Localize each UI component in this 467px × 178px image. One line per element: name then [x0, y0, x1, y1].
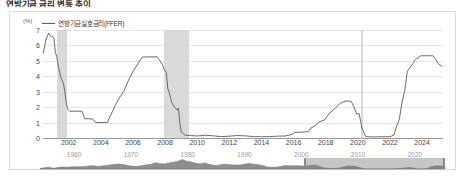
- x-axis-tick-label: 2010: [189, 139, 205, 146]
- x-axis-tick-label: 2016: [286, 139, 302, 146]
- x-axis-tick-label: 2002: [61, 139, 77, 146]
- y-axis-tick-label: 1: [36, 119, 40, 126]
- navigator-tick-label: 1970: [124, 151, 138, 158]
- navigator-tick-label: 2010: [351, 151, 365, 158]
- x-axis-tick-label: 2022: [382, 139, 398, 146]
- navigator-tick-label: 2000: [294, 151, 308, 158]
- y-axis-tick-label: 6: [36, 42, 40, 49]
- y-axis-tick-label: 5: [36, 57, 40, 64]
- navigator-handle-left[interactable]: [304, 158, 306, 169]
- x-axis-tick-label: 2006: [125, 139, 141, 146]
- series-line-chart: [43, 30, 443, 138]
- navigator-selection-window[interactable]: [304, 158, 445, 169]
- legend-line-swatch: [42, 23, 55, 24]
- plot-wrapper: 76543210: [22, 30, 443, 138]
- screenshot-root: 연방기금 금리 변동 추이 (%) 연방기금실효금리(FFER) 7654321…: [0, 0, 467, 178]
- navigator-tick-label: 1980: [180, 151, 194, 158]
- x-axis-tick-label: 2008: [157, 139, 173, 146]
- navigator-tick-label: 1960: [67, 151, 81, 158]
- series-line: [43, 33, 442, 137]
- x-axis-tick-label: 2012: [222, 139, 238, 146]
- y-axis-tick-label: 0: [36, 135, 40, 142]
- plot-area[interactable]: [43, 30, 443, 138]
- navigator-handle-right[interactable]: [443, 158, 445, 169]
- chart-legend: 연방기금실효금리(FFER): [42, 18, 124, 28]
- y-axis-tick-label: 3: [36, 88, 40, 95]
- range-navigator[interactable]: 1960197019801990200020102020: [40, 151, 445, 170]
- x-axis-tick-label: 2024: [414, 139, 430, 146]
- x-axis-tick-label: 2014: [254, 139, 270, 146]
- x-axis: 2002200420062008201020122014201620182020…: [43, 139, 443, 151]
- y-axis: 76543210: [22, 30, 43, 138]
- navigator-track[interactable]: [40, 158, 445, 169]
- legend-item-label: 연방기금실효금리(FFER): [58, 18, 124, 28]
- x-axis-tick-label: 2020: [350, 139, 366, 146]
- y-axis-tick-label: 4: [36, 73, 40, 80]
- chart-card: (%) 연방기금실효금리(FFER) 76543210 200220042006…: [9, 11, 456, 170]
- navigator-tick-label: 1990: [237, 151, 251, 158]
- x-axis-tick-label: 2004: [93, 139, 109, 146]
- page-title: 연방기금 금리 변동 추이: [6, 0, 91, 7]
- y-axis-tick-label: 7: [36, 27, 40, 34]
- y-axis-tick-label: 2: [36, 104, 40, 111]
- navigator-tick-label: 2020: [408, 151, 422, 158]
- y-axis-unit-label: (%): [23, 18, 32, 24]
- x-axis-tick-label: 2018: [318, 139, 334, 146]
